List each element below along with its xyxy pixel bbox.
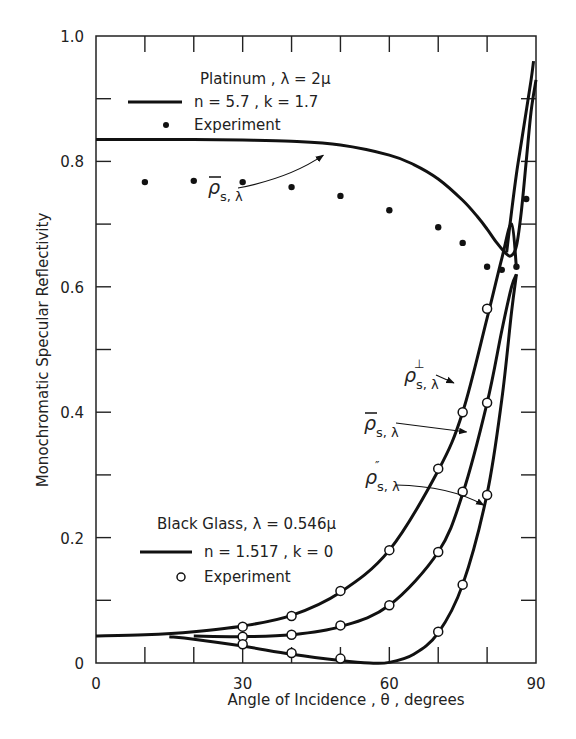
open-circle-icon: [458, 408, 467, 417]
open-circle-icon: [385, 601, 394, 610]
legend-glass-line-label: n = 1.517 , k = 0: [204, 543, 333, 561]
superscript: ⊥: [414, 357, 424, 371]
open-circle-icon: [238, 622, 247, 631]
y-tick-label: 0.8: [60, 153, 84, 171]
x-tick-label: 0: [91, 675, 101, 693]
filled-dot-icon: [142, 179, 148, 185]
arrow: [396, 485, 484, 505]
axes: 030609000.20.40.60.81.0: [60, 28, 545, 693]
filled-dot-icon: [459, 240, 465, 246]
open-circle-icon: [287, 611, 296, 620]
open-circle-icon: [434, 627, 443, 636]
subscript: s, λ: [377, 479, 400, 494]
curves: [96, 61, 536, 663]
annotation-platinum-avg: ρs, λ: [208, 176, 243, 204]
open-circle-icon: [336, 654, 345, 663]
y-axis-label: Monochromatic Specular Reflectivity: [34, 213, 52, 488]
open-circle-icon: [434, 548, 443, 557]
open-circle-icon: [483, 398, 492, 407]
filled-dot-icon: [288, 184, 294, 190]
annotations: ρs, λρs, λ⊥ρs, λρs, λ″: [208, 155, 484, 505]
filled-dot-icon: [499, 267, 505, 273]
y-tick-label: 0.2: [60, 530, 84, 548]
annotation-glass-avg: ρs, λ: [364, 412, 399, 440]
open-circle-icon: [434, 464, 443, 473]
annotation-glass-perp: ρs, λ⊥: [404, 357, 439, 392]
filled-dot-icon: [523, 196, 529, 202]
legend-platinum-marker-label: Experiment: [194, 116, 281, 134]
legend-platinum: Platinum , λ = 2μ n = 5.7 , k = 1.7 Expe…: [128, 70, 331, 134]
legend-glass-marker-label: Experiment: [204, 568, 291, 586]
x-tick-label: 90: [526, 675, 545, 693]
filled-dot-icon: [239, 179, 245, 185]
open-circle-icon: [177, 573, 185, 581]
filled-dot-icon: [435, 224, 441, 230]
filled-dot-icon: [513, 264, 519, 270]
y-tick-label: 0.6: [60, 279, 84, 297]
filled-dot-icon: [337, 193, 343, 199]
filled-dot-icon: [191, 178, 197, 184]
legend-platinum-title: Platinum , λ = 2μ: [200, 70, 331, 88]
y-tick-label: 1.0: [60, 28, 84, 46]
rho-symbol: ρ: [208, 176, 220, 198]
reflectivity-chart: 030609000.20.40.60.81.0 ρs, λρs, λ⊥ρs, λ…: [0, 0, 576, 739]
rho-symbol: ρ: [364, 412, 376, 434]
filled-dot-icon: [386, 207, 392, 213]
filled-dot-icon: [484, 264, 490, 270]
arrow: [238, 155, 323, 188]
theory-curve: [169, 274, 516, 663]
subscript: s, λ: [220, 189, 243, 204]
legend-platinum-line-label: n = 5.7 , k = 1.7: [194, 93, 318, 111]
open-circle-icon: [336, 621, 345, 630]
legend-glass-title: Black Glass, λ = 0.546μ: [157, 515, 336, 533]
open-circle-icon: [458, 580, 467, 589]
y-tick-label: 0.4: [60, 404, 84, 422]
open-circle-icon: [238, 640, 247, 649]
open-circle-icon: [385, 546, 394, 555]
open-circle-icon: [336, 586, 345, 595]
open-circle-icon: [287, 630, 296, 639]
subscript: s, λ: [416, 377, 439, 392]
superscript: ″: [375, 459, 380, 473]
filled-dot-icon: [163, 122, 169, 128]
data-points: [142, 178, 530, 663]
open-circle-icon: [483, 304, 492, 313]
open-circle-icon: [287, 648, 296, 657]
x-axis-label: Angle of Incidence , θ , degrees: [228, 691, 465, 709]
annotation-glass-par: ρs, λ″: [365, 459, 400, 494]
subscript: s, λ: [376, 425, 399, 440]
open-circle-icon: [483, 490, 492, 499]
y-tick-label: 0: [74, 655, 84, 673]
plot-frame: [96, 36, 536, 663]
legend-black-glass: Black Glass, λ = 0.546μ n = 1.517 , k = …: [140, 515, 336, 586]
